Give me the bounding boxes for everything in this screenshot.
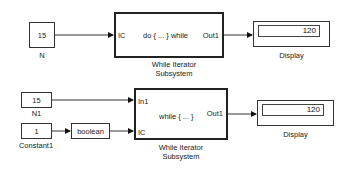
constant-label: Constant1 bbox=[6, 141, 66, 150]
subsystem-label: While Iterator Subsystem bbox=[141, 143, 221, 161]
subsystem-label-line2: Subsystem bbox=[141, 152, 221, 161]
subsystem-label-line1: While Iterator bbox=[141, 143, 221, 152]
port-in1: In1 bbox=[138, 97, 148, 106]
subsystem-mode: while { ... } bbox=[159, 112, 194, 121]
subsystem-label-line1: While Iterator bbox=[134, 60, 214, 69]
constant-label: N bbox=[29, 51, 55, 60]
constant-value: 15 bbox=[30, 31, 54, 40]
data-type-conversion-block[interactable]: boolean bbox=[71, 123, 110, 139]
display-label: Display bbox=[253, 51, 330, 60]
constant-value: 1 bbox=[22, 127, 51, 136]
while-iterator-subsystem[interactable]: In1 IC while { ... } Out1 bbox=[134, 88, 228, 140]
port-out1: Out1 bbox=[203, 31, 219, 40]
constant-label: N1 bbox=[21, 109, 52, 118]
do-while-iterator-subsystem[interactable]: IC do { ... } while Out1 bbox=[114, 12, 224, 58]
subsystem-label: While Iterator Subsystem bbox=[134, 60, 214, 78]
display-block[interactable]: 120 bbox=[257, 100, 334, 126]
conversion-type: boolean bbox=[72, 127, 109, 136]
port-ic: IC bbox=[138, 128, 146, 137]
display-block[interactable]: 120 bbox=[253, 21, 330, 47]
display-value: 120 bbox=[262, 104, 324, 116]
port-out1: Out1 bbox=[207, 109, 223, 118]
subsystem-mode: do { ... } while bbox=[143, 31, 188, 40]
display-label: Display bbox=[257, 130, 334, 139]
subsystem-label-line2: Subsystem bbox=[134, 69, 214, 78]
port-ic: IC bbox=[118, 31, 126, 40]
constant-block-constant1[interactable]: 1 bbox=[21, 123, 52, 139]
constant-value: 15 bbox=[22, 96, 51, 105]
constant-block-n[interactable]: 15 bbox=[29, 22, 55, 48]
display-value: 120 bbox=[258, 25, 320, 37]
constant-block-n1[interactable]: 15 bbox=[21, 92, 52, 108]
